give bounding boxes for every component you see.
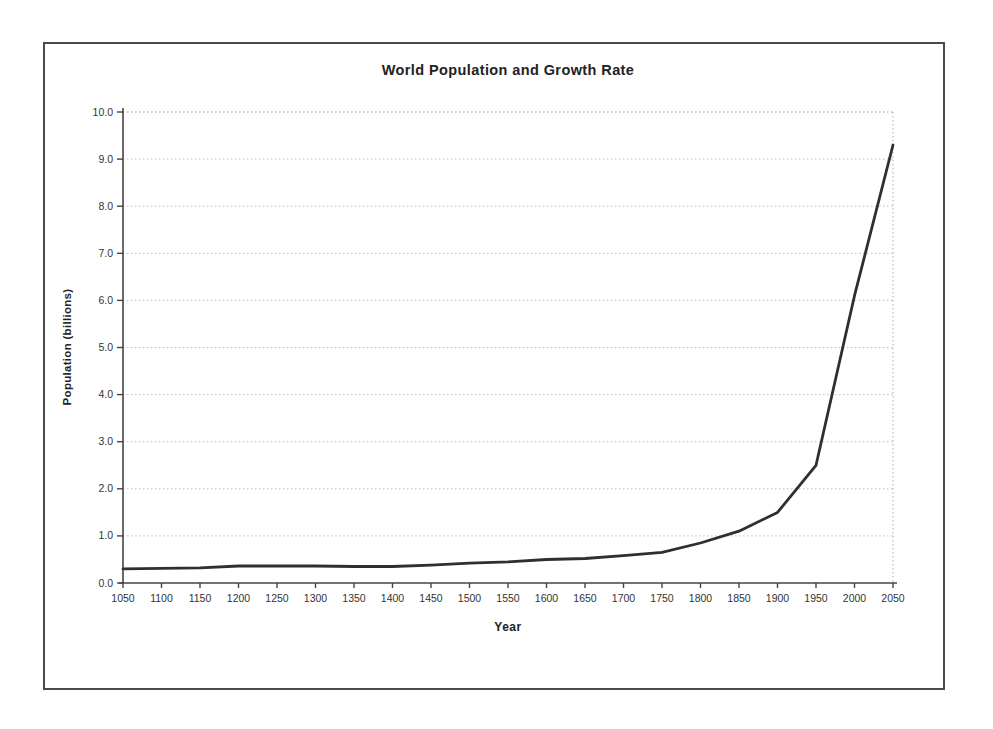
x-tick-label: 1050 xyxy=(111,592,135,604)
y-gridlines xyxy=(123,112,893,536)
x-tick-labels: 1050110011501200125013001350140014501500… xyxy=(111,592,905,604)
y-tick-label: 8.0 xyxy=(98,200,113,212)
x-tick-label: 1500 xyxy=(458,592,482,604)
x-tick-label: 1650 xyxy=(573,592,597,604)
scanned-chart-page: World Population and Growth Rate Populat… xyxy=(0,0,993,729)
x-tick-label: 1550 xyxy=(496,592,520,604)
x-tick-label: 1850 xyxy=(727,592,751,604)
x-tick-label: 1100 xyxy=(150,592,173,604)
x-tick-label: 2000 xyxy=(843,592,867,604)
x-tick-label: 1150 xyxy=(189,592,212,604)
x-tick-label: 1200 xyxy=(227,592,251,604)
y-tick-label: 7.0 xyxy=(98,247,113,259)
population-line xyxy=(123,145,893,569)
x-tick-label: 1250 xyxy=(265,592,289,604)
x-tick-label: 1700 xyxy=(612,592,636,604)
y-tick-label: 0.0 xyxy=(98,577,113,589)
y-tick-labels: 0.01.02.03.04.05.06.07.08.09.010.0 xyxy=(93,106,114,589)
y-tick-label: 9.0 xyxy=(98,153,113,165)
y-tick-label: 1.0 xyxy=(98,529,113,541)
x-tick-label: 1450 xyxy=(419,592,443,604)
y-axis xyxy=(117,108,123,583)
x-axis xyxy=(119,583,897,588)
x-tick-label: 2050 xyxy=(881,592,905,604)
x-tick-label: 1300 xyxy=(304,592,328,604)
x-tick-label: 1750 xyxy=(650,592,674,604)
y-tick-label: 4.0 xyxy=(98,388,113,400)
y-tick-label: 5.0 xyxy=(98,341,113,353)
x-tick-label: 1950 xyxy=(804,592,828,604)
x-tick-label: 1350 xyxy=(342,592,366,604)
x-tick-label: 1900 xyxy=(766,592,790,604)
plot-area: 0.01.02.03.04.05.06.07.08.09.010.0105011… xyxy=(0,0,993,729)
x-tick-label: 1400 xyxy=(381,592,405,604)
y-tick-label: 3.0 xyxy=(98,435,113,447)
y-tick-label: 6.0 xyxy=(98,294,113,306)
x-tick-label: 1600 xyxy=(535,592,559,604)
y-tick-label: 10.0 xyxy=(93,106,114,118)
x-tick-label: 1800 xyxy=(689,592,713,604)
y-tick-label: 2.0 xyxy=(98,482,113,494)
